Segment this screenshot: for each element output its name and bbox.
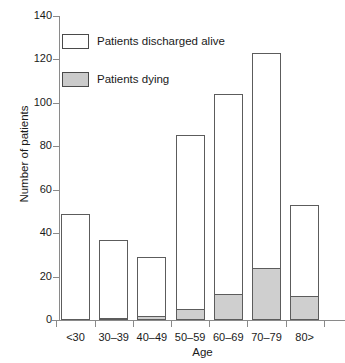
bar-segment-dying bbox=[252, 268, 281, 320]
legend: Patients discharged alive Patients dying bbox=[62, 33, 225, 87]
y-tick-mark bbox=[53, 190, 59, 191]
y-tick-mark bbox=[53, 103, 59, 104]
bar-segment-dying bbox=[176, 309, 205, 320]
bar-segment-dying bbox=[214, 294, 243, 320]
bar-total bbox=[61, 214, 90, 320]
y-tick-mark bbox=[53, 146, 59, 147]
legend-swatch-alive-icon bbox=[62, 34, 89, 49]
bar-total bbox=[176, 135, 205, 320]
bar-segment-dying bbox=[137, 316, 166, 320]
y-tick-mark bbox=[53, 233, 59, 234]
x-tick-mark bbox=[324, 321, 325, 327]
x-tick-label: 80> bbox=[278, 331, 332, 343]
legend-label-dying: Patients dying bbox=[97, 73, 169, 85]
bar-segment-dying bbox=[99, 318, 128, 320]
x-tick-mark bbox=[171, 321, 172, 327]
x-tick-mark bbox=[133, 321, 134, 327]
legend-item-dying: Patients dying bbox=[62, 71, 225, 87]
x-axis-line bbox=[52, 320, 345, 321]
y-axis-title: Number of patients bbox=[18, 84, 30, 224]
bar-total bbox=[137, 257, 166, 320]
x-tick-mark bbox=[286, 321, 287, 327]
y-tick-label: 120 bbox=[12, 53, 52, 64]
bar-chart: 020406080100120140 <3030–3940–4950–5960–… bbox=[0, 0, 345, 363]
y-tick-label: 0 bbox=[12, 314, 52, 325]
x-tick-mark bbox=[56, 321, 57, 327]
legend-label-alive: Patients discharged alive bbox=[97, 35, 225, 47]
x-axis-title: Age bbox=[60, 346, 345, 358]
y-tick-mark bbox=[53, 59, 59, 60]
y-tick-mark bbox=[53, 277, 59, 278]
bar-total bbox=[99, 240, 128, 320]
legend-item-alive: Patients discharged alive bbox=[62, 33, 225, 49]
x-tick-mark bbox=[95, 321, 96, 327]
y-tick-mark bbox=[53, 16, 59, 17]
legend-swatch-dying-icon bbox=[62, 72, 89, 87]
y-tick-label: 140 bbox=[12, 10, 52, 21]
x-tick-mark bbox=[209, 321, 210, 327]
bar-segment-dying bbox=[290, 296, 319, 320]
y-tick-label: 20 bbox=[12, 271, 52, 282]
x-tick-mark bbox=[247, 321, 248, 327]
y-tick-label: 40 bbox=[12, 227, 52, 238]
bar-total bbox=[214, 94, 243, 320]
